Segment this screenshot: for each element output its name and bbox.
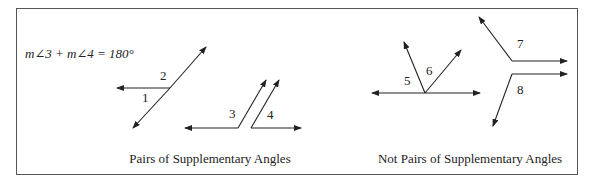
angle-label-6: 6 xyxy=(426,64,433,77)
caption-not-supplementary: Not Pairs of Supplementary Angles xyxy=(378,151,562,167)
non-supplementary-7-8 xyxy=(479,17,567,126)
angle-label-4: 4 xyxy=(267,108,274,121)
angle-label-7: 7 xyxy=(517,37,524,50)
angle-label-1: 1 xyxy=(142,91,149,104)
angle-label-5: 5 xyxy=(404,74,411,87)
supplementary-pair-3-4 xyxy=(185,80,301,128)
angle-label-8: 8 xyxy=(517,83,524,96)
angle-label-2: 2 xyxy=(160,69,167,82)
angle-label-3: 3 xyxy=(229,107,236,120)
caption-supplementary: Pairs of Supplementary Angles xyxy=(129,151,290,167)
supplementary-equation: m∠3 + m∠4 = 180° xyxy=(25,46,134,62)
